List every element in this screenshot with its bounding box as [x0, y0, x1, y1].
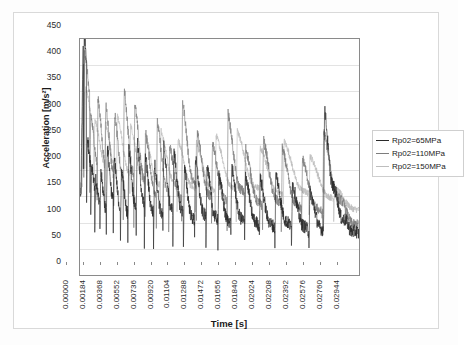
series-lines — [80, 39, 359, 275]
x-axis-tick-label: 0.00000 — [61, 280, 72, 336]
x-axis-tick-mark — [184, 262, 185, 265]
x-axis-tick-mark — [151, 262, 152, 265]
x-axis-tick-label: 0.02576 — [298, 280, 309, 336]
legend-swatch-line-icon — [376, 153, 389, 154]
legend-item-label: Rp02=110MPa — [392, 149, 445, 158]
x-axis-tick-mark — [337, 262, 338, 265]
legend-item[interactable]: Rp02=110MPa — [376, 147, 461, 160]
legend-swatch-line-icon — [376, 140, 389, 141]
figure-frame: Acceleration [m/s²] 45040035030025020015… — [13, 12, 439, 329]
x-axis-tick-mark — [252, 262, 253, 265]
x-axis-tick-label: 0.00368 — [95, 280, 106, 336]
series-line — [80, 86, 359, 221]
y-axis-tick-label: 0 — [21, 257, 61, 266]
x-axis-tick-mark — [269, 262, 270, 265]
x-axis-tick-mark — [320, 262, 321, 265]
x-axis-tick-mark — [286, 262, 287, 265]
x-axis-tick-label: 0.00552 — [112, 280, 123, 336]
x-axis-tick-mark — [303, 262, 304, 265]
x-axis-tick-label: 0.00184 — [78, 280, 89, 336]
plot-area — [79, 38, 360, 276]
x-axis-tick-label: 0.00920 — [146, 280, 157, 336]
y-axis-tick-label: 350 — [21, 73, 61, 82]
x-axis-tick-label: 0.02760 — [315, 280, 326, 336]
legend-item-label: Rp02=65MPa — [392, 136, 441, 145]
legend-item[interactable]: Rp02=65MPa — [376, 134, 461, 147]
x-axis-tick-label: 0.02944 — [332, 280, 343, 336]
x-axis-title: Time [s] — [164, 318, 294, 329]
y-axis-tick-label: 300 — [21, 100, 61, 109]
y-axis-tick-label: 200 — [21, 152, 61, 161]
x-axis-tick-mark — [100, 262, 101, 265]
y-axis-tick-label: 450 — [21, 21, 61, 30]
legend-item-label: Rp02=150MPa — [392, 162, 446, 171]
y-axis-tick-label: 100 — [21, 205, 61, 214]
x-axis-tick-mark — [83, 262, 84, 265]
x-axis-tick-mark — [117, 262, 118, 265]
y-axis-tick-label: 400 — [21, 47, 61, 56]
x-axis-tick-mark — [134, 262, 135, 265]
x-axis-tick-mark — [235, 262, 236, 265]
legend: Rp02=65MPaRp02=110MPaRp02=150MPa — [372, 130, 464, 177]
x-axis-tick-mark — [218, 262, 219, 265]
x-axis-tick-label: 0.00736 — [129, 280, 140, 336]
y-axis-tick-label: 150 — [21, 178, 61, 187]
x-axis-tick-mark — [201, 262, 202, 265]
legend-item[interactable]: Rp02=150MPa — [376, 160, 461, 173]
legend-swatch-line-icon — [376, 166, 389, 167]
y-axis-tick-label: 250 — [21, 126, 61, 135]
x-axis-tick-mark — [167, 262, 168, 265]
x-axis-tick-mark — [66, 262, 67, 265]
y-axis-tick-label: 50 — [21, 231, 61, 240]
